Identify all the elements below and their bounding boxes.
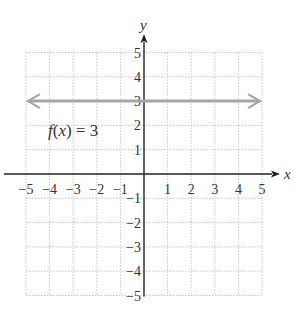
y-axis-arrow-icon — [141, 34, 148, 43]
y-tick-label: −1 — [126, 191, 141, 206]
y-axis-label: y — [138, 17, 147, 33]
function-graph: −5−4−3−2−11234554321−1−2−3−4−5 x y f(x) … — [0, 0, 294, 314]
x-tick-label: −2 — [89, 182, 104, 197]
x-tick-label: −5 — [19, 182, 34, 197]
y-tick-label: 4 — [134, 70, 141, 85]
x-tick-label: 5 — [259, 182, 266, 197]
y-tick-label: 1 — [134, 143, 141, 158]
y-tick-label: 2 — [134, 118, 141, 133]
x-axis-label: x — [283, 166, 291, 182]
x-axis-arrow-icon — [271, 171, 280, 178]
y-tick-label: −4 — [126, 264, 141, 279]
x-tick-label: 4 — [235, 182, 242, 197]
y-tick-label: 5 — [134, 46, 141, 61]
y-tick-label: −5 — [126, 289, 141, 304]
x-tick-label: −4 — [42, 182, 57, 197]
x-tick-label: 2 — [188, 182, 195, 197]
annotation-rest: ) = 3 — [66, 121, 98, 140]
y-tick-label: −2 — [126, 216, 141, 231]
x-tick-label: 1 — [164, 182, 171, 197]
x-tick-label: 3 — [211, 182, 218, 197]
y-tick-label: −3 — [126, 240, 141, 255]
function-annotation: f(x) = 3 — [48, 121, 98, 140]
x-tick-label: −3 — [66, 182, 81, 197]
